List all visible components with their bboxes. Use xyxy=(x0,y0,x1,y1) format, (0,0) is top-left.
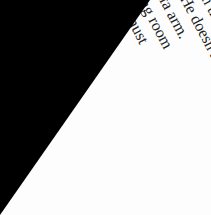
photo: er the pale yellow carpet, Queen's on th… xyxy=(0,0,211,215)
